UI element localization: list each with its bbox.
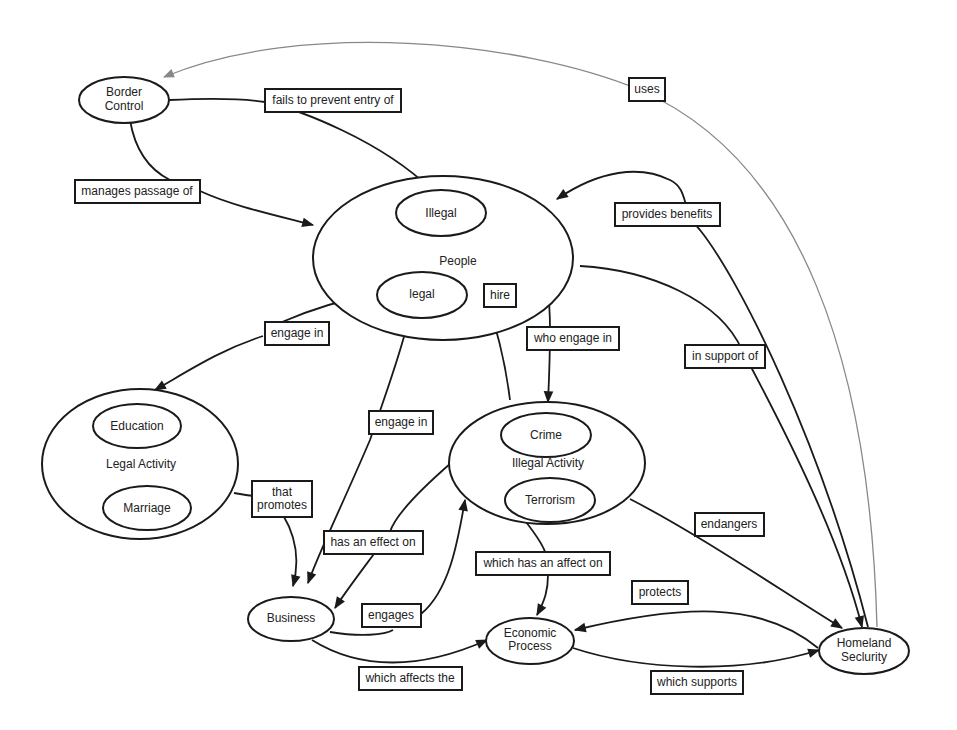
label-which-affects-the[interactable]: which affects the	[359, 667, 462, 690]
label-text: hire	[490, 288, 510, 302]
label-that-promotes[interactable]: that promotes	[252, 481, 312, 517]
edge-which-supports	[573, 648, 819, 667]
label-engage-in-legal[interactable]: engage in	[265, 322, 329, 345]
label-text: endangers	[701, 517, 758, 531]
node-marriage[interactable]: Marriage	[103, 486, 191, 530]
node-label: Control	[105, 99, 144, 113]
concept-map-canvas: Border Control People Illegal legal Lega…	[0, 0, 957, 730]
label-text: engage in	[375, 415, 428, 429]
node-label: Illegal Activity	[512, 456, 584, 470]
label-text: which has an affect on	[482, 556, 602, 570]
label-engages[interactable]: engages	[362, 604, 421, 627]
label-endangers[interactable]: endangers	[695, 513, 764, 536]
node-label: legal	[409, 287, 434, 301]
node-label: Homeland	[837, 636, 892, 650]
node-label: People	[439, 254, 477, 268]
label-manages-passage[interactable]: manages passage of	[75, 180, 200, 203]
node-economic-process[interactable]: Economic Process	[486, 618, 574, 664]
label-text: who engage in	[533, 331, 612, 345]
node-label: Illegal	[425, 206, 456, 220]
node-label: Crime	[530, 428, 562, 442]
label-fails-to-prevent[interactable]: fails to prevent entry of	[265, 89, 401, 112]
label-in-support-of[interactable]: in support of	[685, 345, 765, 368]
node-label: Education	[110, 419, 163, 433]
label-text: in support of	[692, 349, 759, 363]
node-label: Process	[508, 639, 551, 653]
node-education[interactable]: Education	[93, 404, 181, 448]
label-text: uses	[634, 82, 659, 96]
label-who-engage-in[interactable]: who engage in	[527, 327, 619, 350]
node-label: Economic	[504, 626, 557, 640]
label-text: protects	[639, 585, 682, 599]
node-illegal[interactable]: Illegal	[396, 190, 486, 236]
edge-protects	[575, 611, 818, 648]
label-protects[interactable]: protects	[632, 581, 688, 604]
node-label: Border	[106, 85, 142, 99]
node-business[interactable]: Business	[248, 597, 334, 641]
label-which-has-an-affect-on[interactable]: which has an affect on	[476, 552, 610, 575]
label-provides-benefits[interactable]: provides benefits	[615, 203, 720, 226]
node-legal[interactable]: legal	[377, 272, 467, 318]
label-text: manages passage of	[81, 184, 193, 198]
node-homeland-security[interactable]: Homeland Seclurity	[819, 628, 909, 674]
label-text: engages	[368, 608, 414, 622]
node-terrorism[interactable]: Terrorism	[505, 478, 595, 522]
node-label: Business	[267, 611, 316, 625]
node-border-control[interactable]: Border Control	[79, 77, 169, 123]
label-text: engage in	[271, 326, 324, 340]
edge-which-affects-the	[312, 640, 487, 663]
node-label: Terrorism	[525, 493, 575, 507]
label-text: which supports	[656, 675, 737, 689]
node-label: Legal Activity	[106, 457, 176, 471]
node-label: Marriage	[123, 501, 171, 515]
node-crime[interactable]: Crime	[501, 413, 591, 457]
label-text: that	[272, 485, 293, 499]
label-text: fails to prevent entry of	[272, 93, 394, 107]
edge-manages-passage	[130, 120, 313, 225]
label-uses[interactable]: uses	[629, 78, 665, 101]
label-hire[interactable]: hire	[484, 284, 516, 307]
label-has-an-effect-on[interactable]: has an effect on	[324, 531, 423, 554]
label-text: provides benefits	[622, 207, 713, 221]
label-which-supports[interactable]: which supports	[651, 671, 743, 694]
label-text: which affects the	[364, 671, 454, 685]
label-text: promotes	[257, 498, 307, 512]
node-label: Seclurity	[841, 650, 887, 664]
label-engage-in-business[interactable]: engage in	[369, 411, 433, 434]
label-text: has an effect on	[330, 535, 415, 549]
